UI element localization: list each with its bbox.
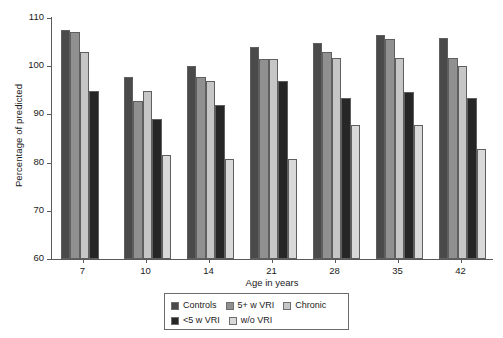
x-tick-mark: [272, 259, 273, 263]
chart-legend: Controls 5+ w VRI Chronic <5 w VRI w/o V…: [164, 293, 349, 330]
bar: [89, 91, 98, 259]
y-tick-mark: [47, 211, 51, 212]
bar: [278, 81, 287, 259]
bar: [70, 32, 79, 259]
y-tick-mark: [47, 259, 51, 260]
bar: [250, 47, 259, 259]
bar: [152, 119, 161, 259]
y-tick-mark: [47, 18, 51, 19]
x-tick-mark: [398, 259, 399, 263]
legend-item-5plus-w-vri: 5+ w VRI: [226, 301, 275, 310]
bar: [448, 58, 457, 259]
y-tick-label: 110: [18, 11, 44, 22]
bar: [80, 52, 89, 259]
bar: [259, 59, 268, 260]
legend-item-controls: Controls: [171, 301, 217, 310]
x-tick-label: 14: [191, 265, 227, 276]
bar: [395, 58, 404, 259]
y-tick-label: 90: [18, 107, 44, 118]
legend-label-lt5-w-vri: <5 w VRI: [183, 316, 220, 325]
x-tick-mark: [335, 259, 336, 263]
x-tick-mark: [83, 259, 84, 263]
y-tick-label: 100: [18, 59, 44, 70]
x-tick-mark: [209, 259, 210, 263]
legend-label-5plus-w-vri: 5+ w VRI: [238, 301, 275, 310]
legend-item-lt5-w-vri: <5 w VRI: [171, 316, 220, 325]
bar: [477, 149, 486, 259]
bar: [206, 81, 215, 259]
bar: [332, 58, 341, 259]
legend-label-wo-vri: w/o VRI: [241, 316, 273, 325]
bar: [124, 77, 133, 259]
bar: [133, 101, 142, 259]
bar: [341, 98, 350, 259]
bar: [187, 66, 196, 259]
bar: [351, 125, 360, 259]
y-tick-label: 80: [18, 156, 44, 167]
legend-label-chronic: Chronic: [295, 301, 326, 310]
bar: [322, 52, 331, 259]
bar: [385, 39, 394, 259]
x-tick-mark: [461, 259, 462, 263]
bar: [467, 98, 476, 259]
bar: [143, 91, 152, 259]
x-tick-label: 7: [65, 265, 101, 276]
y-tick-label: 70: [18, 204, 44, 215]
bar: [269, 59, 278, 259]
y-tick-mark: [47, 163, 51, 164]
bar: [404, 92, 413, 259]
bar: [458, 66, 467, 259]
y-tick-label: 60: [18, 252, 44, 263]
legend-label-controls: Controls: [183, 301, 217, 310]
legend-item-chronic: Chronic: [283, 301, 326, 310]
x-tick-mark: [146, 259, 147, 263]
bar: [376, 35, 385, 259]
bar: [61, 30, 70, 259]
bar: [162, 155, 171, 259]
legend-row-1: Controls 5+ w VRI Chronic: [171, 298, 342, 313]
bar-chart: Percentage of predicted 6070809010011071…: [0, 0, 503, 338]
bar: [439, 38, 448, 259]
x-tick-label: 35: [380, 265, 416, 276]
plot-area: 607080901001107101421283542: [51, 18, 492, 259]
legend-swatch-controls: [171, 302, 179, 310]
bar: [288, 159, 297, 259]
y-tick-mark: [47, 66, 51, 67]
bar: [196, 77, 205, 259]
bar: [414, 125, 423, 259]
x-tick-label: 42: [443, 265, 479, 276]
legend-swatch-wo-vri: [229, 317, 237, 325]
legend-swatch-5plus-w-vri: [226, 302, 234, 310]
x-tick-label: 21: [254, 265, 290, 276]
legend-row-2: <5 w VRI w/o VRI: [171, 313, 342, 328]
bar: [215, 105, 224, 259]
x-tick-label: 28: [317, 265, 353, 276]
legend-swatch-lt5-w-vri: [171, 317, 179, 325]
legend-item-wo-vri: w/o VRI: [229, 316, 273, 325]
x-tick-label: 10: [128, 265, 164, 276]
legend-swatch-chronic: [283, 302, 291, 310]
y-tick-mark: [47, 114, 51, 115]
bar: [313, 43, 322, 259]
bar: [225, 159, 234, 259]
x-axis-title: Age in years: [51, 277, 493, 288]
